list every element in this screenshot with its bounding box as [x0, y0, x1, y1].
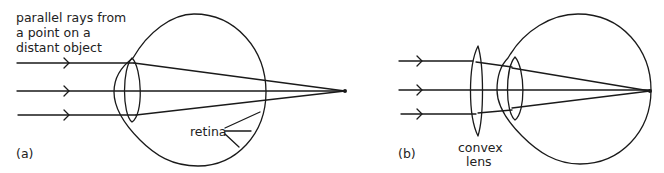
retina-label: retina: [190, 124, 227, 139]
refracted-ray-bottom: [512, 91, 650, 108]
eyeball-outline: [497, 14, 651, 164]
refracted-ray-top: [134, 63, 345, 91]
caption-line-2: a point on a: [16, 25, 91, 40]
caption-line-1: parallel rays from: [16, 10, 126, 25]
panel-a: parallel rays from a point on a distant …: [16, 10, 347, 166]
eye-diagram: parallel rays from a point on a distant …: [0, 0, 664, 173]
panel-a-tag: (a): [16, 146, 33, 161]
panel-b-tag: (b): [398, 146, 416, 161]
retina-leader: [225, 112, 260, 128]
eyeball-outline: [114, 14, 266, 166]
panel-b: (b) convex lens: [398, 14, 652, 169]
focal-point: [343, 89, 347, 93]
lens-ray-bottom: [478, 110, 512, 113]
retina-leader: [225, 134, 239, 147]
convex-lens: [471, 46, 483, 136]
refracted-ray-bottom: [136, 91, 345, 115]
lens-label-line-1: convex: [458, 140, 503, 155]
focal-point: [648, 89, 652, 93]
caption-line-3: distant object: [16, 40, 102, 55]
refracted-ray-top: [512, 68, 650, 91]
lens-label-line-2: lens: [466, 154, 492, 169]
eye-lens: [125, 58, 141, 122]
